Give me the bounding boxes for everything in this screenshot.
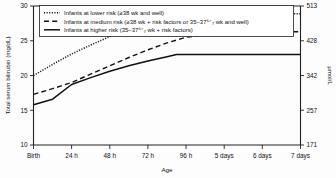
y-right-tick-label-513: 513 <box>307 2 318 9</box>
y-right-tick-label-428: 428 <box>307 37 318 44</box>
x-tick-label-7days: 7 days <box>291 152 310 160</box>
x-tick-label-96h: 96 h <box>180 152 193 159</box>
x-tick-label-48h: 48 h <box>104 152 117 159</box>
y-left-tick-label-15: 15 <box>20 107 28 114</box>
x-tick-label-5days: 5 days <box>215 152 234 160</box>
legend-label-medium-risk: Infants at medium risk (≥38 wk + risk fa… <box>64 19 249 25</box>
y-right-tick-label-257: 257 <box>307 107 318 114</box>
phototherapy-nomogram-figure: 30 25 20 15 10 513 428 342 257 171 <box>0 0 336 178</box>
x-axis-title: Age <box>161 166 173 173</box>
y-axis-right-ticks: 513 428 342 257 171 <box>301 2 318 148</box>
legend-label-lower-risk: Infants at lower risk (≥38 wk and well) <box>64 10 164 16</box>
legend: Infants at lower risk (≥38 wk and well) … <box>40 6 294 37</box>
y-left-tick-label-10: 10 <box>20 141 28 148</box>
y-axis-right-title: µmol/L <box>327 66 334 85</box>
x-tick-label-6days: 6 days <box>253 152 272 160</box>
x-tick-label-24h: 24 h <box>65 152 78 159</box>
curve-higher-risk <box>34 55 301 105</box>
y-right-tick-label-171: 171 <box>307 141 318 148</box>
y-axis-left-ticks: 30 25 20 15 10 <box>20 2 33 148</box>
x-tick-label-72h: 72 h <box>142 152 155 159</box>
curve-medium-risk <box>34 32 301 95</box>
y-left-tick-label-20: 20 <box>20 72 28 79</box>
chart-canvas: 30 25 20 15 10 513 428 342 257 171 <box>0 0 336 178</box>
y-left-tick-label-30: 30 <box>20 2 28 9</box>
y-left-tick-label-25: 25 <box>20 37 28 44</box>
x-tick-label-birth: Birth <box>27 152 41 159</box>
legend-label-higher-risk: Infants at higher risk (35–37⁶ᐟ₇ wk + ri… <box>64 27 193 33</box>
y-axis-left-title: Total serum bilirubin (mg/dL) <box>4 36 11 114</box>
y-right-tick-label-342: 342 <box>307 72 318 79</box>
x-axis-ticks: Birth 24 h 48 h 72 h 96 h 5 days 6 days … <box>27 145 310 160</box>
